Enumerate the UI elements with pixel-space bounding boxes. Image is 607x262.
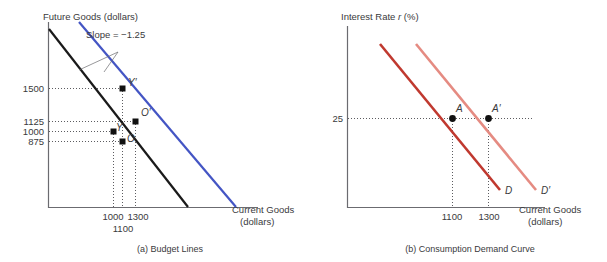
- budget-line-initial: [49, 29, 188, 207]
- point-marker-O-prime: [133, 119, 139, 125]
- panel-b-axes: [348, 26, 546, 208]
- panel-a-budget-lines: Future Goods (dollars) 1500 1125 1000 87…: [23, 11, 295, 254]
- panel-b-caption: (b) Consumption Demand Curve: [405, 244, 535, 254]
- panel-a-xtick-1100: 1100: [113, 223, 133, 234]
- panel-a-y-axis-title: Future Goods (dollars): [43, 11, 138, 22]
- point-marker-A: [449, 115, 456, 122]
- figure-canvas: Future Goods (dollars) 1500 1125 1000 87…: [0, 0, 607, 262]
- panel-a-axes: [49, 22, 259, 208]
- budget-line-new: [79, 22, 236, 207]
- panel-b-x-axis-title-line1: Current Goods: [519, 204, 582, 215]
- panel-a-ytick-1500: 1500: [23, 83, 44, 94]
- panel-a-x-axis-title-line2: (dollars): [240, 216, 274, 227]
- point-label-A: A: [455, 103, 463, 114]
- demand-curve-D-prime: [416, 44, 536, 190]
- panel-b-consumption-demand-curve: Interest Rate r (%) 25 1100 1300 Current…: [332, 11, 581, 254]
- panel-a-x-axis-title-line1: Current Goods: [232, 204, 295, 215]
- panel-b-y-axis-title-post: (%): [401, 11, 418, 22]
- panel-b-xtick-1300: 1300: [478, 211, 499, 222]
- curve-label-D-prime: D′: [541, 185, 551, 196]
- panel-b-y-axis-title-pre: Interest Rate: [341, 11, 398, 22]
- panel-b-y-axis-title: Interest Rate r (%): [341, 11, 419, 22]
- panel-b-ytick-25: 25: [332, 113, 343, 124]
- demand-curve-D: [380, 44, 500, 190]
- panel-a-ytick-875: 875: [28, 136, 44, 147]
- point-label-O: O: [127, 133, 135, 144]
- panel-a-xtick-1000: 1000: [102, 211, 123, 222]
- point-label-Y-prime: Y′: [128, 77, 138, 88]
- point-label-O-prime: O′: [141, 107, 152, 118]
- curve-label-D: D: [505, 185, 512, 196]
- economics-figure: Future Goods (dollars) 1500 1125 1000 87…: [0, 0, 607, 262]
- panel-b-x-axis-title-line2: (dollars): [528, 216, 562, 227]
- panel-b-xtick-1100: 1100: [442, 211, 462, 222]
- point-marker-Y-prime: [120, 86, 126, 92]
- point-marker-A-prime: [485, 115, 492, 122]
- point-label-A-prime: A′: [491, 103, 502, 114]
- point-marker-O: [120, 139, 126, 145]
- slope-annotation: Slope = −1.25: [86, 29, 145, 40]
- panel-a-caption: (a) Budget Lines: [137, 244, 204, 254]
- panel-a-xtick-1300: 1300: [127, 211, 148, 222]
